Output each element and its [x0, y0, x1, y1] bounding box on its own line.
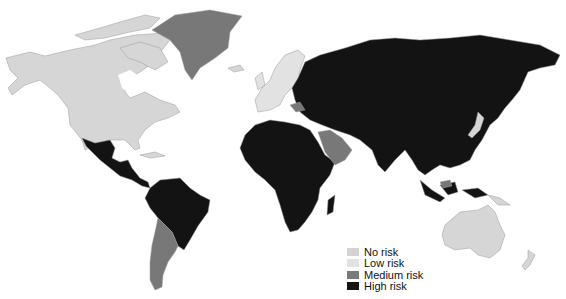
legend-label: Low risk — [364, 257, 404, 269]
legend-label: High risk — [364, 280, 407, 292]
legend-swatch-low-risk — [347, 259, 359, 267]
legend-label: No risk — [364, 246, 398, 258]
region-australia — [442, 205, 505, 258]
legend-item-high-risk: High risk — [347, 281, 423, 293]
region-caribbean — [140, 152, 165, 158]
region-se-asia-islands — [420, 180, 488, 202]
legend-swatch-no-risk — [347, 248, 359, 256]
legend-swatch-medium-risk — [347, 271, 359, 279]
legend-swatch-high-risk — [347, 282, 359, 290]
legend-item-low-risk: Low risk — [347, 258, 423, 270]
region-papua — [488, 195, 510, 205]
region-iceland — [228, 65, 244, 72]
legend-label: Medium risk — [364, 269, 423, 281]
world-map — [0, 0, 566, 299]
legend-item-medium-risk: Medium risk — [347, 269, 423, 281]
legend-item-no-risk: No risk — [347, 246, 423, 258]
region-madagascar — [327, 195, 335, 215]
region-mexico-central-america — [82, 138, 150, 188]
region-new-zealand — [522, 250, 535, 270]
legend: No risk Low risk Medium risk High risk — [347, 246, 423, 292]
